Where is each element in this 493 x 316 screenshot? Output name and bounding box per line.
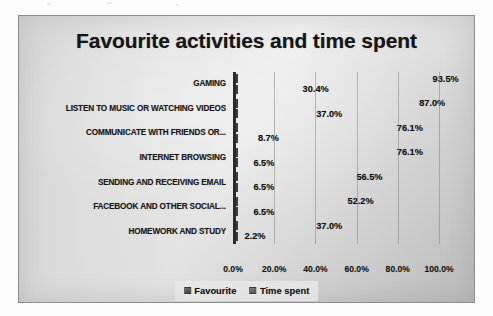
bar-fill-timespent bbox=[236, 134, 238, 143]
chart-row: SENDING AND RECEIVING EMAIL56.5%6.5% bbox=[19, 170, 474, 195]
bar-fill-favourite bbox=[236, 99, 238, 108]
bar-fill-timespent bbox=[236, 232, 238, 241]
bar-value-label: 87.0% bbox=[419, 98, 445, 108]
bar-value-label: 6.5% bbox=[253, 158, 274, 168]
legend-label: Favourite bbox=[194, 285, 236, 296]
scan-speck bbox=[107, 2, 112, 4]
bar-favourite[interactable]: 56.5% bbox=[236, 172, 352, 181]
bar-value-label: 76.1% bbox=[397, 147, 423, 157]
bar-fill-favourite bbox=[236, 74, 238, 83]
chart-title: Favourite activities and time spent bbox=[19, 29, 474, 53]
value-tick-label: 20.0% bbox=[262, 264, 286, 274]
chart-row: HOMEWORK AND STUDY37.0%2.2% bbox=[19, 219, 474, 244]
bar-value-label: 6.5% bbox=[253, 207, 274, 217]
category-label: LISTEN TO MUSIC OR WATCHING VIDEOS bbox=[26, 104, 226, 113]
bar-value-label: 56.5% bbox=[356, 172, 382, 182]
chart-legend: FavouriteTime spent bbox=[175, 281, 319, 301]
bar-timespent[interactable]: 30.4% bbox=[236, 85, 299, 94]
page-background: Favourite activities and time spent GAMI… bbox=[0, 0, 493, 316]
gridline-1000 bbox=[439, 72, 440, 244]
bar-value-label: 76.1% bbox=[397, 123, 423, 133]
bar-fill-timespent bbox=[236, 183, 238, 192]
value-axis-tick-labels: 0.0%20.0%40.0%60.0%80.0%100.0% bbox=[19, 264, 474, 278]
bar-value-label: 37.0% bbox=[316, 109, 342, 119]
value-tick-label: 40.0% bbox=[303, 264, 327, 274]
bar-fill-favourite bbox=[236, 221, 238, 230]
category-axis-line bbox=[233, 72, 236, 244]
chart-row: INTERNET BROWSING76.1%6.5% bbox=[19, 146, 474, 171]
scan-speck bbox=[47, 3, 51, 5]
category-label: HOMEWORK AND STUDY bbox=[26, 227, 226, 236]
bar-fill-favourite bbox=[236, 123, 238, 132]
gridline-400 bbox=[315, 72, 316, 244]
chart-container: Favourite activities and time spent GAMI… bbox=[18, 15, 475, 303]
gridline-800 bbox=[398, 72, 399, 244]
chart-row: FACEBOOK AND OTHER SOCIAL...52.2%6.5% bbox=[19, 195, 474, 220]
bar-fill-timespent bbox=[236, 85, 238, 94]
gridline-600 bbox=[357, 72, 358, 244]
category-label: GAMING bbox=[26, 79, 226, 88]
legend-item-timespent[interactable]: Time spent bbox=[249, 285, 309, 296]
category-label: INTERNET BROWSING bbox=[26, 153, 226, 162]
value-tick-label: 0.0% bbox=[223, 264, 243, 274]
bar-timespent[interactable]: 2.2% bbox=[236, 232, 241, 241]
bar-timespent[interactable]: 6.5% bbox=[236, 207, 249, 216]
bar-value-label: 37.0% bbox=[316, 221, 342, 231]
legend-item-favourite[interactable]: Favourite bbox=[184, 285, 237, 296]
bar-favourite[interactable]: 52.2% bbox=[236, 197, 344, 206]
chart-row: COMMUNICATE WITH FRIENDS OR...76.1%8.7% bbox=[19, 121, 474, 146]
chart-row: LISTEN TO MUSIC OR WATCHING VIDEOS87.0%3… bbox=[19, 97, 474, 122]
bar-favourite[interactable]: 76.1% bbox=[236, 148, 393, 157]
bar-timespent[interactable]: 6.5% bbox=[236, 158, 249, 167]
value-tick-label: 80.0% bbox=[386, 264, 410, 274]
legend-label: Time spent bbox=[260, 285, 309, 296]
category-label: COMMUNICATE WITH FRIENDS OR... bbox=[26, 128, 226, 137]
bar-value-label: 6.5% bbox=[253, 182, 274, 192]
bar-timespent[interactable]: 6.5% bbox=[236, 183, 249, 192]
bar-fill-timespent bbox=[236, 109, 238, 118]
bar-value-label: 2.2% bbox=[245, 231, 266, 241]
bar-fill-favourite bbox=[236, 148, 238, 157]
bar-fill-timespent bbox=[236, 158, 238, 167]
legend-swatch-icon bbox=[184, 287, 191, 294]
bar-fill-favourite bbox=[236, 197, 238, 206]
bar-value-label: 8.7% bbox=[258, 133, 279, 143]
value-tick-label: 100.0% bbox=[424, 264, 453, 274]
category-label: FACEBOOK AND OTHER SOCIAL... bbox=[26, 202, 226, 211]
bar-fill-timespent bbox=[236, 207, 238, 216]
bar-favourite[interactable]: 93.5% bbox=[236, 74, 429, 83]
legend-swatch-icon bbox=[249, 287, 256, 294]
bar-value-label: 52.2% bbox=[348, 196, 374, 206]
category-label: SENDING AND RECEIVING EMAIL bbox=[26, 178, 226, 187]
gridline-200 bbox=[274, 72, 275, 244]
bar-fill-favourite bbox=[236, 172, 238, 181]
scan-speck bbox=[176, 4, 179, 6]
bar-timespent[interactable]: 8.7% bbox=[236, 134, 254, 143]
bar-favourite[interactable]: 76.1% bbox=[236, 123, 393, 132]
value-tick-label: 60.0% bbox=[344, 264, 368, 274]
bar-favourite[interactable]: 87.0% bbox=[236, 99, 415, 108]
plot-area: GAMING93.5%30.4%LISTEN TO MUSIC OR WATCH… bbox=[19, 72, 474, 244]
bar-value-label: 93.5% bbox=[433, 74, 459, 84]
chart-row: GAMING93.5%30.4% bbox=[19, 72, 474, 97]
